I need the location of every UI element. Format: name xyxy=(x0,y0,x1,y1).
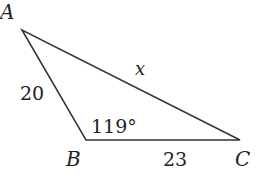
triangle-diagram: A B C 20 23 x 119° xyxy=(0,0,256,192)
side-label-bc: 23 xyxy=(163,148,187,170)
side-label-ab: 20 xyxy=(20,82,44,104)
side-label-ac: x xyxy=(135,58,145,79)
vertex-label-a: A xyxy=(0,0,14,24)
vertex-label-b: B xyxy=(65,147,81,171)
angle-label-b: 119° xyxy=(91,115,137,137)
vertex-label-c: C xyxy=(235,147,250,171)
